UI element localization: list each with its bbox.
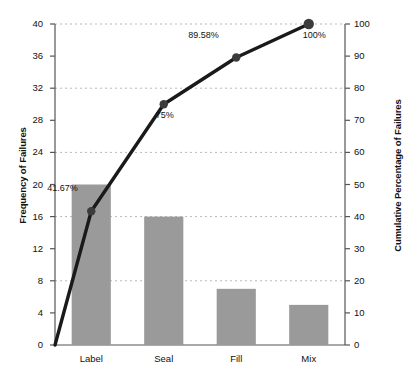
cumulative-marker-label — [87, 207, 95, 215]
pareto-chart: Frequency of Failures Cumulative Percent… — [0, 0, 408, 384]
y-axis-right-tick-label: 70 — [354, 114, 388, 125]
y-axis-right-tick-label: 40 — [354, 211, 388, 222]
y-axis-left-tick-label: 4 — [13, 307, 43, 318]
cumulative-point-label-mix: 100% — [303, 30, 326, 40]
cumulative-point-label-fill: 89.58% — [188, 30, 219, 40]
y-axis-left-tick-label: 8 — [13, 275, 43, 286]
y-axis-right-tick-label: 20 — [354, 275, 388, 286]
y-axis-right-tick-label: 90 — [354, 50, 388, 61]
y-axis-right-tick-label: 10 — [354, 307, 388, 318]
y-axis-left-tick-label: 40 — [13, 18, 43, 29]
y-axis-right-tick-label: 0 — [354, 339, 388, 350]
bars-group — [72, 185, 329, 346]
y-axis-right-tick-label: 100 — [354, 18, 388, 29]
bar-fill — [217, 289, 256, 345]
y-axis-left-tick-label: 12 — [13, 243, 43, 254]
y-axis-left-tick-label: 0 — [13, 339, 43, 350]
bar-seal — [144, 217, 183, 345]
x-axis-label-fill: Fill — [196, 353, 276, 364]
y-axis-left-tick-label: 32 — [13, 82, 43, 93]
y-axis-left-tick-label: 24 — [13, 146, 43, 157]
y-axis-right-tick-label: 50 — [354, 179, 388, 190]
y-axis-right-tick-label: 60 — [354, 146, 388, 157]
cumulative-point-label-seal: 75% — [156, 110, 174, 120]
cumulative-markers-group — [87, 19, 314, 216]
cumulative-marker-fill — [232, 53, 240, 61]
y-axis-left-tick-label: 16 — [13, 211, 43, 222]
x-axis-label-mix: Mix — [269, 353, 349, 364]
y-axis-left-tick-label: 20 — [13, 179, 43, 190]
y-axis-right-tick-label: 30 — [354, 243, 388, 254]
cumulative-marker-mix — [304, 19, 314, 29]
bar-mix — [289, 305, 328, 345]
x-axis-label-seal: Seal — [124, 353, 204, 364]
cumulative-marker-seal — [160, 100, 168, 108]
y-axis-left-tick-label: 36 — [13, 50, 43, 61]
y-axis-right-tick-label: 80 — [354, 82, 388, 93]
y-axis-left-tick-label: 28 — [13, 114, 43, 125]
cumulative-point-label-label: 41.67% — [47, 183, 78, 193]
x-axis-label-label: Label — [51, 353, 131, 364]
